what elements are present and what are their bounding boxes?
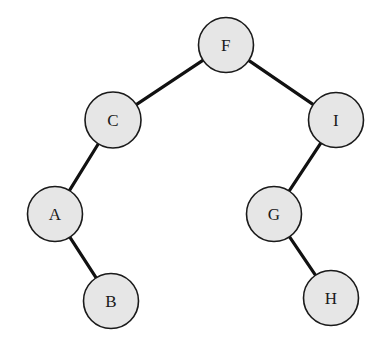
node-label-h: H [325,289,338,308]
node-label-c: C [107,111,119,130]
tree-node-h[interactable]: H [304,271,359,326]
tree-diagram: FCIAGBH [0,0,389,344]
tree-edge-i-g [289,142,322,192]
tree-edge-f-i [248,60,314,105]
tree-node-i[interactable]: I [309,93,364,148]
tree-node-b[interactable]: B [84,274,139,329]
node-label-b: B [105,292,117,311]
tree-node-a[interactable]: A [28,187,83,242]
node-label-a: A [49,205,62,224]
tree-edge-c-a [69,143,99,191]
tree-edge-f-c [136,60,204,105]
node-label-f: F [221,36,231,55]
node-label-i: I [333,111,339,130]
tree-node-f[interactable]: F [199,18,254,73]
tree-node-g[interactable]: G [247,187,302,242]
tree-edge-a-b [69,236,96,278]
tree-canvas: FCIAGBH [0,0,389,344]
tree-edge-g-h [289,236,316,276]
tree-node-c[interactable]: C [85,92,141,148]
node-label-g: G [268,205,281,224]
